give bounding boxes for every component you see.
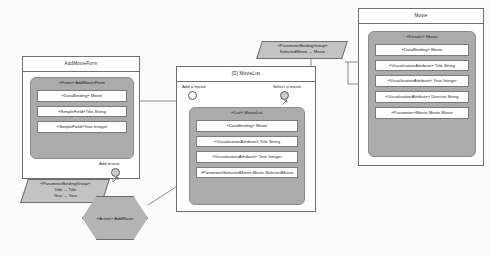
note-text: «ParameterBindingGroup» SelectedMovie → … — [260, 42, 344, 55]
container-title: AddMovieForm — [23, 57, 139, 72]
panel-title: «List» MovieList — [190, 108, 304, 117]
note-line-2: Year → Year — [25, 193, 105, 199]
container-title: Movie — [359, 9, 483, 24]
container-movie-list[interactable]: [D] MovieList Add a movie Select a movie… — [176, 66, 316, 212]
row-simplefield-title[interactable]: «SimpleField»Title String — [37, 106, 127, 118]
panel-rows: «DataBinding» Movie «SimpleField»Title S… — [37, 90, 127, 137]
panel-rows: «DataBinding» Movie «VisualisationAttrib… — [196, 120, 298, 182]
panel-form-addmovieform[interactable]: «Form» AddMovieForm «DataBinding» Movie … — [30, 77, 134, 159]
action-label: «Action» AddMovie — [97, 216, 134, 221]
row-parameter-selectedmovie[interactable]: «ParameterSelectedMovie Movie SelectedMo… — [196, 167, 298, 179]
port-arrow-glyph — [281, 99, 288, 106]
panel-rows: «DataBinding» Movie «VisualisationAttrib… — [375, 44, 469, 123]
row-databinding[interactable]: «DataBinding» Movie — [37, 90, 127, 102]
port-circle-icon[interactable] — [188, 91, 197, 100]
container-title: [D] MovieList — [177, 67, 315, 82]
note-text: «ParameterBindingGroup» Title → Title Ye… — [25, 180, 105, 200]
panel-title: «Form» AddMovieForm — [31, 78, 133, 87]
port-add-a-movie[interactable]: Add a movie — [181, 84, 229, 106]
port-arrow-icon[interactable] — [280, 91, 289, 100]
diagram-canvas: AddMovieForm «Form» AddMovieForm «DataBi… — [0, 0, 490, 257]
note-binding-group-selected-movie[interactable]: «ParameterBindingGroup» SelectedMovie → … — [256, 41, 348, 59]
container-movie-details[interactable]: Movie «Details» Movie «DataBinding» Movi… — [358, 8, 484, 166]
row-databinding[interactable]: «DataBinding» Movie — [196, 120, 298, 132]
container-add-movie-form[interactable]: AddMovieForm «Form» AddMovieForm «DataBi… — [22, 56, 140, 179]
event-port-icon[interactable] — [111, 168, 120, 177]
row-visattr-title[interactable]: «VisualisationAttribute» Title String — [196, 136, 298, 148]
row-visattr-director[interactable]: «VisualisationAttribute» Director String — [375, 91, 469, 104]
note-line-1: SelectedMovie → Movie — [260, 49, 344, 55]
row-databinding[interactable]: «DataBinding» Movie — [375, 44, 469, 56]
row-visattr-year[interactable]: «VisualisationAttribute» Year Integer — [375, 75, 469, 87]
row-visattr-year[interactable]: «VisualisationAttribute» Year Integer — [196, 151, 298, 163]
port-select-a-movie[interactable]: Select a movie — [269, 84, 317, 106]
row-parameter-movie[interactable]: «Parameter»Movie Movie Movie — [375, 107, 469, 119]
event-arrow-icon — [112, 176, 119, 183]
panel-title: «Details» Movie — [369, 32, 475, 41]
row-visattr-title[interactable]: «VisualisationAttribute» Title String — [375, 60, 469, 72]
row-simplefield-year[interactable]: «SimpleField»Year Integer — [37, 121, 127, 133]
panel-list-movielist[interactable]: «List» MovieList «DataBinding» Movie «Vi… — [189, 107, 305, 205]
panel-details-movie[interactable]: «Details» Movie «DataBinding» Movie «Vis… — [368, 31, 476, 157]
port-label: Add a movie — [182, 84, 206, 90]
port-label: Select a movie — [273, 84, 301, 90]
event-label: Add movie — [99, 161, 119, 167]
